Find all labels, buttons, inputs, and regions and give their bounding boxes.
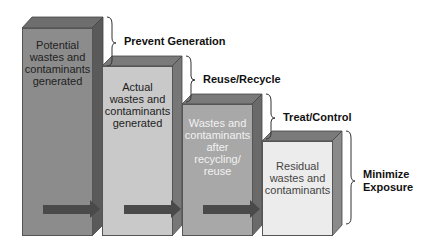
stage-label: Actual wastes and contaminants generated (105, 81, 170, 129)
stage-label: Residual wastes and contaminants (265, 160, 330, 196)
step-label-treat: Treat/Control (283, 111, 351, 124)
step-label-minimize: Minimize Exposure (363, 168, 413, 194)
step-label-reuse: Reuse/Recycle (203, 73, 281, 86)
bracket-minimize (346, 131, 355, 224)
stage-box-after-recycling: Wastes and contaminants after recycling/… (182, 104, 253, 236)
stage-label: Wastes and contaminants after recycling/… (185, 117, 250, 177)
stage-box-residual: Residual wastes and contaminants (262, 141, 333, 236)
step-label-prevent: Prevent Generation (124, 35, 225, 48)
stage-label: Potential wastes and contaminants genera… (25, 39, 90, 87)
